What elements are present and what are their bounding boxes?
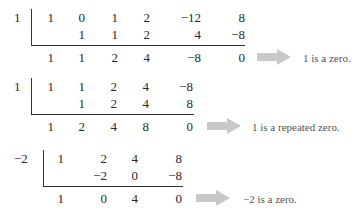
note: −2 is a zero. <box>243 194 297 205</box>
product: −8 <box>231 28 245 41</box>
result: 4 <box>111 120 118 133</box>
division-line <box>31 114 194 115</box>
result: −8 <box>187 51 201 64</box>
result: 0 <box>176 192 183 205</box>
coefficient: 1 <box>79 80 86 93</box>
coefficient: 1 <box>58 152 65 165</box>
division-bracket <box>31 78 32 114</box>
coefficient: 8 <box>239 11 246 24</box>
coefficient: 4 <box>143 80 150 93</box>
coefficient: 2 <box>144 11 151 24</box>
result: 2 <box>112 51 119 64</box>
product: 1 <box>79 97 86 110</box>
result: 4 <box>132 192 139 205</box>
division-bracket <box>43 150 44 186</box>
coefficient: 1 <box>48 11 55 24</box>
coefficient: −12 <box>181 11 201 24</box>
result: 0 <box>239 51 246 64</box>
division-line <box>31 45 245 46</box>
right-arrow-icon <box>207 118 241 134</box>
product: −2 <box>93 169 107 182</box>
coefficient: 1 <box>48 80 55 93</box>
coefficient: 2 <box>111 80 118 93</box>
divisor: 1 <box>14 80 21 93</box>
right-arrow-icon <box>196 190 230 206</box>
product: 0 <box>132 169 139 182</box>
result: 1 <box>48 120 55 133</box>
product: 4 <box>143 97 150 110</box>
coefficient: 2 <box>101 152 108 165</box>
note: 1 is a zero. <box>303 53 351 64</box>
division-line <box>43 186 183 187</box>
product: 2 <box>111 97 118 110</box>
result: 1 <box>58 192 65 205</box>
result: 1 <box>79 51 86 64</box>
right-arrow-icon <box>257 49 291 65</box>
coefficient: 0 <box>79 11 86 24</box>
product: 1 <box>112 28 119 41</box>
coefficient: −8 <box>179 80 193 93</box>
product: 4 <box>195 28 202 41</box>
divisor: 1 <box>14 11 21 24</box>
product: 8 <box>187 97 194 110</box>
result: 4 <box>144 51 151 64</box>
result: 8 <box>143 120 150 133</box>
product: 1 <box>79 28 86 41</box>
result: 0 <box>187 120 194 133</box>
coefficient: 4 <box>132 152 139 165</box>
product: 2 <box>144 28 151 41</box>
product: −8 <box>168 169 182 182</box>
result: 0 <box>101 192 108 205</box>
note: 1 is a repeated zero. <box>252 122 340 133</box>
result: 1 <box>48 51 55 64</box>
coefficient: 8 <box>176 152 183 165</box>
result: 2 <box>79 120 86 133</box>
divisor: −2 <box>14 152 28 165</box>
coefficient: 1 <box>112 11 119 24</box>
division-bracket <box>31 9 32 45</box>
